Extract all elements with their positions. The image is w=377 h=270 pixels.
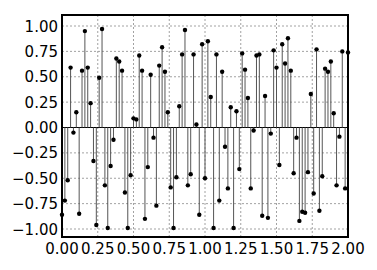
stem-marker: [234, 109, 238, 113]
x-tick-label: 0.50: [117, 240, 150, 258]
stem-marker: [294, 135, 298, 139]
stem-marker: [200, 42, 204, 46]
stem-marker: [249, 186, 253, 190]
stem-marker: [88, 101, 92, 105]
stem-marker: [280, 42, 284, 46]
stem-marker: [211, 226, 215, 230]
stem-marker: [137, 53, 141, 57]
stem-marker: [309, 92, 313, 96]
stem-marker: [140, 68, 144, 72]
stem-marker: [194, 122, 198, 126]
stem-marker: [343, 186, 347, 190]
stem-marker: [83, 29, 87, 33]
stem-marker: [229, 105, 233, 109]
stem-marker: [151, 135, 155, 139]
stem-marker: [174, 175, 178, 179]
y-axis-ticks: 1.000.750.500.250.00−0.25−0.50−0.75−1.00: [12, 18, 58, 239]
stem-marker: [320, 174, 324, 178]
stem-marker: [189, 172, 193, 176]
stem-marker: [63, 198, 67, 202]
stem-marker: [332, 111, 336, 115]
stem-marker: [171, 226, 175, 230]
stem-marker: [143, 217, 147, 221]
y-tick-label: 0.75: [25, 43, 58, 61]
stem-marker: [274, 65, 278, 69]
stem-marker: [334, 183, 338, 187]
stem-marker: [111, 137, 115, 141]
stem-marker: [66, 178, 70, 182]
stem-marker: [243, 67, 247, 71]
y-tick-label: −0.25: [12, 144, 58, 162]
stem-marker: [97, 76, 101, 80]
stem-marker: [291, 171, 295, 175]
stem-marker: [257, 52, 261, 56]
stem-marker: [197, 213, 201, 217]
x-tick-label: 0.75: [153, 240, 186, 258]
stem-marker: [123, 190, 127, 194]
stem-marker: [86, 65, 90, 69]
stem-marker: [154, 203, 158, 207]
stem-marker: [183, 28, 187, 32]
y-tick-label: −1.00: [12, 221, 58, 239]
stem-marker: [226, 186, 230, 190]
stem-marker: [168, 185, 172, 189]
stem-marker: [217, 198, 221, 202]
stem-marker: [277, 163, 281, 167]
x-tick-label: 2.00: [331, 240, 364, 258]
stem-marker: [223, 145, 227, 149]
stem-marker: [297, 219, 301, 223]
stem-marker: [74, 110, 78, 114]
stem-marker: [117, 59, 121, 63]
stem-marker: [146, 165, 150, 169]
stem-marker: [237, 167, 241, 171]
stem-marker: [128, 173, 132, 177]
stem-marker: [94, 223, 98, 227]
stem-marker: [206, 39, 210, 43]
stem-marker: [186, 183, 190, 187]
x-axis-ticks: 0.000.250.500.751.001.251.501.752.00: [45, 240, 364, 258]
stem-marker: [326, 69, 330, 73]
stem-marker: [77, 212, 81, 216]
stem-marker: [191, 52, 195, 56]
x-tick-label: 0.00: [45, 240, 78, 258]
stem-marker: [289, 68, 293, 72]
stem-marker: [209, 95, 213, 99]
stem-plot: 1.000.750.500.250.00−0.25−0.50−0.75−1.00…: [0, 0, 377, 270]
stem-marker: [80, 68, 84, 72]
y-tick-label: 1.00: [25, 18, 58, 36]
stem-marker: [314, 47, 318, 51]
stem-marker: [163, 69, 167, 73]
stem-marker: [260, 214, 264, 218]
stem-marker: [286, 36, 290, 40]
stem-marker: [337, 134, 341, 138]
stem-marker: [126, 226, 130, 230]
stem-marker: [71, 130, 75, 134]
stem-marker: [240, 51, 244, 55]
stem-marker: [251, 128, 255, 132]
stem-marker: [246, 96, 250, 100]
y-tick-label: 0.50: [25, 68, 58, 86]
x-tick-label: 1.50: [260, 240, 293, 258]
stem-marker: [180, 52, 184, 56]
stem-marker: [148, 73, 152, 77]
stem-marker: [68, 65, 72, 69]
stem-marker: [263, 94, 267, 98]
y-tick-label: −0.75: [12, 195, 58, 213]
stem-marker: [108, 164, 112, 168]
stem-marker: [311, 191, 315, 195]
x-tick-label: 0.25: [81, 240, 114, 258]
stem-marker: [269, 131, 273, 135]
y-tick-label: 0.25: [25, 94, 58, 112]
x-tick-label: 1.75: [296, 240, 329, 258]
stem-marker: [220, 69, 224, 73]
stem-marker: [266, 216, 270, 220]
stem-marker: [231, 226, 235, 230]
stem-marker: [91, 159, 95, 163]
x-tick-label: 1.25: [224, 240, 257, 258]
stem-marker: [203, 176, 207, 180]
stem-marker: [283, 61, 287, 65]
stem-marker: [214, 52, 218, 56]
stem-marker: [100, 27, 104, 31]
stem-marker: [160, 45, 164, 49]
x-tick-label: 1.00: [188, 240, 221, 258]
